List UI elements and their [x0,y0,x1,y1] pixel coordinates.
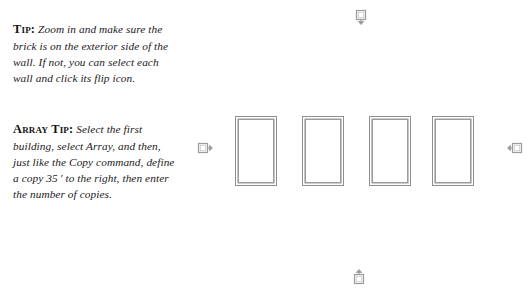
flip-icon-right[interactable] [505,139,523,157]
illustration-canvas: Tip: Zoom in and make sure the brick is … [0,0,532,288]
tip-paragraph: Tip: Zoom in and make sure the brick is … [13,21,175,86]
building-footprint-3[interactable] [369,116,411,186]
array-tip-label: Array Tip: [13,122,73,136]
tip-text: Zoom in and make sure the brick is on th… [13,23,168,84]
building-footprint-4[interactable] [432,116,474,186]
flip-icon-left[interactable] [197,139,215,157]
flip-icon-bottom[interactable] [350,267,368,285]
flip-icon-top[interactable] [352,9,370,27]
array-tip-paragraph: Array Tip: Select the first building, se… [13,121,175,202]
tip-label: Tip: [13,22,35,36]
building-footprint-2[interactable] [302,116,344,186]
building-footprint-1[interactable] [235,116,277,186]
